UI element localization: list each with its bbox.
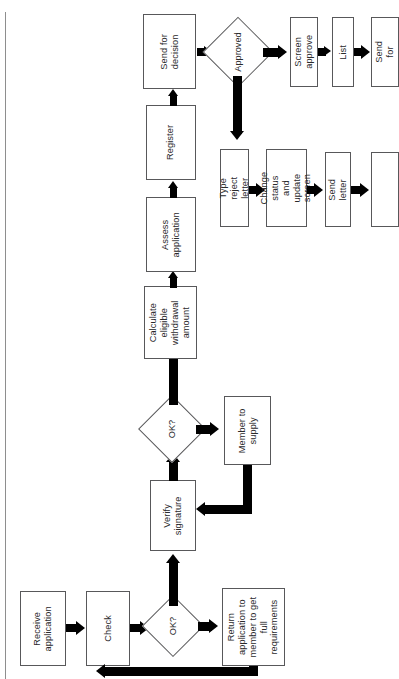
node-label: OK? bbox=[148, 405, 196, 453]
connector-calculate-to-assess bbox=[170, 278, 177, 288]
node-check[interactable]: Check bbox=[86, 591, 130, 666]
node-screen-approve[interactable]: Screen approve bbox=[290, 17, 318, 87]
arrowhead-screen-approve-to-list bbox=[324, 46, 331, 56]
node-return-application[interactable]: Return application to member to get full… bbox=[222, 588, 285, 666]
node-label: Check bbox=[103, 615, 114, 642]
node-approved[interactable]: Approved bbox=[213, 27, 263, 77]
node-label: Verify signature bbox=[162, 496, 184, 535]
loopback-member-horizontal bbox=[204, 505, 252, 514]
node-change-status-and-update-screen[interactable]: Change status and update screen bbox=[266, 149, 307, 227]
arrowhead-calculate-to-assess bbox=[168, 271, 178, 278]
node-label: Send letter bbox=[327, 178, 349, 202]
node-label: Send for bbox=[374, 39, 396, 65]
node-label: Assess application bbox=[160, 212, 182, 257]
node-list[interactable]: List bbox=[332, 17, 354, 87]
node-send-for-decision[interactable]: Send for decision bbox=[143, 14, 196, 89]
node-label: Register bbox=[166, 125, 177, 160]
connector-assess-to-register bbox=[170, 188, 177, 198]
node-ok-2[interactable]: OK? bbox=[148, 405, 196, 453]
node-label: Send for decision bbox=[159, 34, 181, 70]
node-label: List bbox=[338, 45, 349, 60]
node-label: Member to supply bbox=[237, 408, 259, 453]
node-type-reject-letter[interactable]: Type reject letter bbox=[220, 149, 249, 227]
connector-ok1-to-verify bbox=[169, 562, 178, 606]
loopback-member-vertical bbox=[243, 465, 252, 510]
loopback-return-horizontal bbox=[104, 667, 258, 676]
arrowhead-approved-to-type-reject-letter bbox=[230, 131, 244, 140]
node-calculate-eligible-withdrawal-amount[interactable]: Calculate eligible withdrawal amount bbox=[144, 286, 197, 359]
node-label: Change status and update screen bbox=[259, 168, 313, 207]
node-member-to-supply[interactable]: Member to supply bbox=[224, 396, 271, 465]
node-label: Calculate eligible withdrawal amount bbox=[149, 300, 192, 344]
arrowhead-receive-to-check bbox=[76, 621, 85, 635]
arrowhead-change-status-to-send-letter bbox=[314, 183, 323, 197]
node-label: Screen approve bbox=[293, 35, 315, 69]
connector-register-to-send-for-decision bbox=[170, 96, 177, 106]
arrowhead-loopback-into-check bbox=[96, 664, 105, 678]
connector-approved-to-type-reject-letter bbox=[233, 76, 242, 134]
node-label: Type reject letter bbox=[218, 174, 251, 201]
arrowhead-ok2-to-member bbox=[210, 422, 219, 436]
node-verify-signature[interactable]: Verify signature bbox=[150, 480, 196, 551]
arrowhead-approved-to-screen-approve bbox=[278, 45, 287, 59]
node-label: OK? bbox=[151, 604, 195, 648]
node-register[interactable]: Register bbox=[146, 105, 196, 180]
node-send-letter[interactable]: Send letter bbox=[325, 152, 351, 227]
arrowhead-ok1-to-verify bbox=[166, 554, 180, 563]
node-label: Receive application bbox=[32, 606, 54, 651]
node-receive-application[interactable]: Receive application bbox=[20, 591, 66, 666]
arrowhead-assess-to-register bbox=[168, 181, 178, 188]
node-label: Approved bbox=[213, 27, 263, 77]
arrowhead-member-into-verify bbox=[196, 502, 205, 516]
connector-verify-to-ok2 bbox=[169, 461, 178, 481]
node-ok-1[interactable]: OK? bbox=[151, 604, 195, 648]
arrowhead-list-to-send-for bbox=[361, 45, 370, 59]
arrowhead-register-to-send-for-decision bbox=[168, 89, 178, 96]
node-assess-application[interactable]: Assess application bbox=[146, 197, 196, 272]
node-send-for[interactable]: Send for bbox=[371, 17, 399, 87]
arrowhead-send-letter-to-next bbox=[360, 183, 369, 197]
scan-page-edge bbox=[5, 12, 6, 679]
node-reject-tail[interactable] bbox=[371, 152, 399, 227]
arrowhead-ok1-to-return bbox=[209, 619, 218, 633]
node-label: Return application to member to get full… bbox=[226, 597, 280, 658]
